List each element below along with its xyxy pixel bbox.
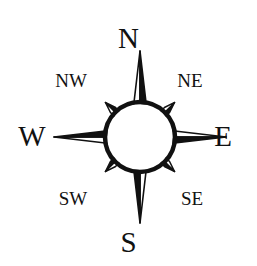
- label-south: S: [0, 228, 257, 257]
- compass-rose-figure: N S W E NW NE SW SE: [0, 0, 257, 266]
- compass-inner-disc: [107, 104, 173, 170]
- label-east: E: [205, 122, 241, 151]
- label-northeast: NE: [166, 71, 214, 90]
- label-north: N: [0, 24, 257, 53]
- label-northwest: NW: [45, 71, 97, 90]
- label-west: W: [14, 122, 50, 151]
- label-southeast: SE: [168, 189, 216, 208]
- label-southwest: SW: [47, 189, 99, 208]
